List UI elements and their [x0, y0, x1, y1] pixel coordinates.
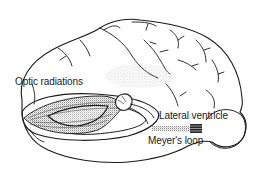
brain-illustration: [0, 0, 258, 174]
label-lateral-ventricle: Lateral ventricle: [159, 111, 228, 121]
brain-diagram: Optic radiations Lateral ventricle Meyer…: [0, 0, 258, 174]
label-meyers-loop: Meyer's loop: [148, 136, 203, 146]
brain-outline: [21, 19, 246, 162]
label-optic-radiations: Optic radiations: [15, 77, 83, 87]
lateral-geniculate: [116, 94, 132, 110]
stipple-shading: [106, 64, 174, 88]
